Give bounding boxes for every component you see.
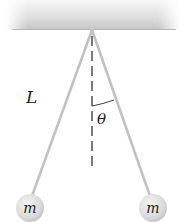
angle-arc [92,100,114,106]
left-mass-label: m [23,200,36,216]
left-bob: m [16,194,44,222]
angle-label: θ [97,110,106,128]
pendulum-diagram: L θ m m [0,0,189,222]
left-rod [32,30,92,196]
ceiling-support [6,0,180,30]
right-mass-label: m [146,200,159,216]
right-bob: m [139,194,167,222]
length-label: L [25,87,37,107]
